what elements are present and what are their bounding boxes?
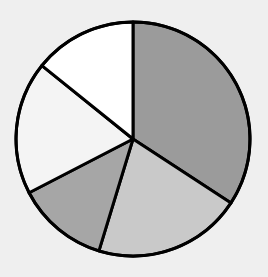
pie-chart-canvas [0, 0, 268, 277]
pie-chart [0, 0, 268, 277]
